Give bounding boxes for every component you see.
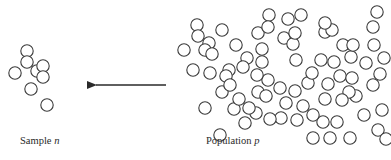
population-circle-icon <box>280 97 292 109</box>
sample-cluster <box>9 45 53 111</box>
population-circle-icon <box>328 56 340 68</box>
population-circle-icon <box>319 93 331 105</box>
population-circle-icon <box>322 78 334 90</box>
sample-circle-icon <box>25 83 37 95</box>
population-circle-icon <box>376 104 388 116</box>
population-circle-icon <box>324 132 336 144</box>
population-circle-icon <box>331 116 343 128</box>
population-circle-icon <box>345 51 357 63</box>
population-circle-icon <box>199 102 211 114</box>
population-circle-icon <box>206 48 218 60</box>
population-cluster <box>178 6 391 145</box>
population-circle-icon <box>237 61 249 73</box>
population-circle-icon <box>334 70 346 82</box>
population-circle-icon <box>289 85 301 97</box>
population-circle-icon <box>307 132 319 144</box>
sample-label-text: Sample <box>20 135 52 146</box>
population-circle-icon <box>178 44 190 56</box>
population-circle-icon <box>287 38 299 50</box>
population-label-text: Population <box>206 135 252 146</box>
population-circle-icon <box>262 21 274 33</box>
sample-label: Sample n <box>20 135 59 146</box>
population-circle-icon <box>204 67 216 79</box>
population-circle-icon <box>360 57 372 69</box>
sample-circle-icon <box>37 71 49 83</box>
population-circle-icon <box>344 132 356 144</box>
population-circle-icon <box>306 67 318 79</box>
population-circle-icon <box>263 9 275 21</box>
population-circle-icon <box>374 68 386 80</box>
population-circle-icon <box>358 109 370 121</box>
population-circle-icon <box>274 82 286 94</box>
population-circle-icon <box>380 133 391 145</box>
population-label: Population p <box>206 135 259 146</box>
population-circle-icon <box>256 43 268 55</box>
population-circle-icon <box>368 39 380 51</box>
population-circle-icon <box>192 30 204 42</box>
population-circle-icon <box>346 72 358 84</box>
sample-circle-icon <box>9 67 21 79</box>
population-circle-icon <box>251 69 263 81</box>
population-circle-icon <box>315 54 327 66</box>
population-circle-icon <box>347 39 359 51</box>
population-circle-icon <box>336 94 348 106</box>
population-circle-icon <box>260 90 272 102</box>
population-circle-icon <box>297 100 309 112</box>
population-circle-icon <box>378 52 390 64</box>
population-circle-icon <box>239 117 251 129</box>
population-circle-icon <box>216 24 228 36</box>
population-circle-icon <box>371 6 383 18</box>
population-circle-icon <box>233 93 245 105</box>
population-circle-icon <box>289 27 301 39</box>
population-circle-icon <box>187 64 199 76</box>
population-circle-icon <box>319 17 331 29</box>
sample-label-variable: n <box>54 135 59 146</box>
population-circle-icon <box>367 21 379 33</box>
population-circle-icon <box>224 79 236 91</box>
population-circle-icon <box>264 113 276 125</box>
population-circle-icon <box>243 102 255 114</box>
population-circle-icon <box>230 39 242 51</box>
population-circle-icon <box>282 13 294 25</box>
population-circle-icon <box>256 56 268 68</box>
population-circle-icon <box>295 9 307 21</box>
sample-circle-icon <box>21 56 33 68</box>
population-circle-icon <box>290 54 302 66</box>
population-label-variable: p <box>254 135 259 146</box>
sample-circle-icon <box>41 99 53 111</box>
population-circle-icon <box>291 114 303 126</box>
population-circle-icon <box>307 109 319 121</box>
population-circle-icon <box>367 79 379 91</box>
